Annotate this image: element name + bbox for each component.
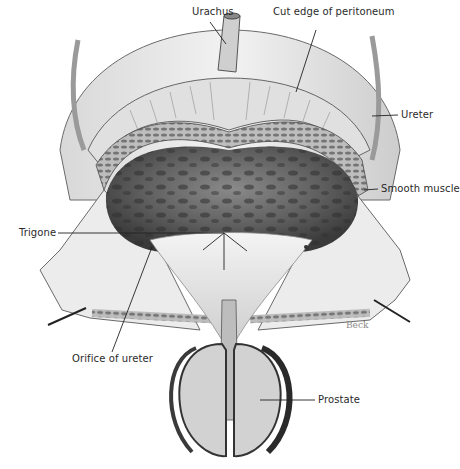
label-ureter: Ureter xyxy=(401,109,433,121)
label-smooth-muscle: Smooth muscle xyxy=(381,183,460,195)
label-trigone: Trigone xyxy=(19,227,56,239)
label-prostate: Prostate xyxy=(318,394,360,406)
prostate-left-lobe xyxy=(179,344,226,456)
label-urachus: Urachus xyxy=(192,6,234,18)
urachus-cord xyxy=(218,16,240,72)
label-cut-edge-peritoneum: Cut edge of peritoneum xyxy=(273,6,395,18)
ureteric-orifice-right xyxy=(304,245,308,249)
artist-signature: Beck xyxy=(346,320,368,330)
label-orifice-of-ureter: Orifice of ureter xyxy=(72,353,153,365)
